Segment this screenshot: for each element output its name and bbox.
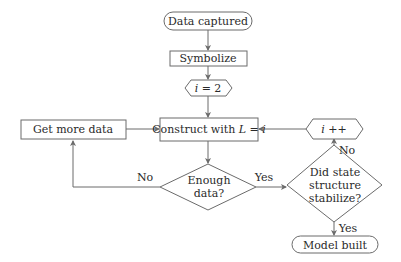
node-label: Symbolize [179,52,236,65]
edge-label-enough-yes: Yes [254,171,274,184]
node-label-line3: stabilize? [309,192,362,205]
node-label-line2: data? [194,187,225,200]
node-symbolize: Symbolize [170,51,247,66]
node-construct: Construct with L = i [152,118,266,141]
node-label-line1: Did state [310,166,360,179]
node-label: i ++ [321,123,346,136]
node-label: Construct with L = i [152,123,266,136]
node-data-captured: Data captured [164,12,252,30]
node-get-more-data: Get more data [21,120,126,139]
node-label: Get more data [33,123,114,136]
node-label-line2: structure [309,179,361,192]
edge-label-stabilize-no: No [339,144,356,157]
edge-label-enough-no: No [137,171,154,184]
node-label-line1: Enough [188,174,231,187]
node-stabilize: Did state structure stabilize? [287,145,382,222]
edge-label-stabilize-yes: Yes [338,222,358,235]
node-label: Model built [303,239,368,252]
node-model-built: Model built [292,236,378,253]
node-label: i = 2 [195,82,222,95]
node-enough-data: Enough data? [160,164,256,210]
node-init-i: i = 2 [185,80,232,96]
node-label: Data captured [168,15,248,28]
node-increment-i: i ++ [306,119,363,139]
flowchart: Data captured Symbolize i = 2 Get more d… [0,0,401,262]
